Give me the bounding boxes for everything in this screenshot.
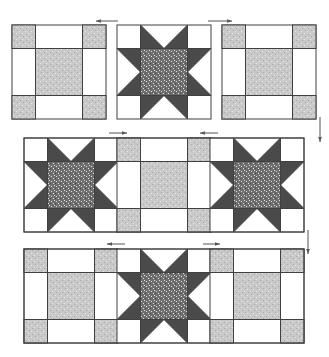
pressing-arrow-right: [203, 242, 220, 246]
pressing-arrow-right: [109, 131, 127, 135]
pressing-arrow-left: [107, 242, 125, 246]
nine-patch-block: [117, 138, 211, 232]
corner-square: [24, 249, 48, 273]
arrow-head: [306, 249, 310, 254]
star-block: [210, 138, 304, 232]
nine-patch-block: [210, 249, 304, 343]
quilt-row: [12, 25, 316, 119]
corner-square: [281, 249, 305, 273]
corner-square: [210, 320, 234, 344]
corner-square: [24, 320, 48, 344]
quilt-row: [24, 249, 304, 343]
arrow-head: [227, 19, 232, 23]
corner-square: [188, 209, 212, 233]
center-square: [48, 273, 95, 320]
corner-square: [95, 320, 119, 344]
corner-square: [281, 320, 305, 344]
pressing-arrow-right: [208, 19, 232, 23]
nine-patch-block: [222, 25, 316, 119]
star-center: [234, 162, 281, 209]
arrow-head: [107, 242, 112, 246]
pressing-arrow-left: [200, 131, 218, 135]
quilt-row: [24, 138, 304, 232]
quilt-diagram: [0, 0, 329, 357]
corner-square: [222, 25, 246, 49]
corner-square: [188, 138, 212, 162]
pressing-arrow-down: [318, 117, 322, 142]
corner-square: [117, 138, 141, 162]
corner-square: [12, 96, 36, 120]
star-center: [141, 273, 188, 320]
corner-square: [293, 25, 317, 49]
nine-patch-block: [24, 249, 118, 343]
corner-square: [222, 96, 246, 120]
star-center: [48, 162, 95, 209]
arrow-head: [96, 19, 101, 23]
center-square: [36, 49, 83, 96]
center-square: [246, 49, 293, 96]
star-block: [24, 138, 118, 232]
arrow-head: [215, 242, 220, 246]
nine-patch-block: [12, 25, 106, 119]
star-center: [141, 49, 188, 96]
corner-square: [83, 96, 107, 120]
pressing-arrow-down: [306, 230, 310, 254]
pressing-arrow-left: [96, 19, 118, 23]
corner-square: [95, 249, 119, 273]
corner-square: [210, 249, 234, 273]
corner-square: [117, 209, 141, 233]
corner-square: [293, 96, 317, 120]
corner-square: [83, 25, 107, 49]
arrow-head: [318, 137, 322, 142]
star-block: [117, 249, 211, 343]
arrow-head: [200, 131, 205, 135]
center-square: [234, 273, 281, 320]
star-block: [117, 25, 211, 119]
arrow-head: [122, 131, 127, 135]
center-square: [141, 162, 188, 209]
corner-square: [12, 25, 36, 49]
